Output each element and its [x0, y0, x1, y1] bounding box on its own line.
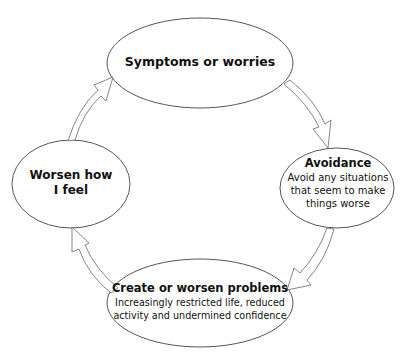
node-worsen-title-line-1: Worsen how	[14, 168, 128, 183]
node-symptoms: Symptoms or worries	[110, 54, 290, 70]
node-problems-desc-line-2: activity and undermined confidence	[110, 309, 290, 322]
node-problems-desc-line-1: Increasingly restricted life, reduced	[110, 296, 290, 309]
node-problems: Create or worsen problems Increasingly r…	[110, 281, 290, 322]
arrow-worsen-to-symptoms-icon	[68, 77, 113, 141]
arrow-avoidance-to-problems-icon	[287, 228, 334, 290]
cycle-diagram: Symptoms or worries Avoidance Avoid any …	[0, 0, 403, 358]
arrow-symptoms-to-avoidance-icon	[284, 80, 331, 148]
node-avoidance: Avoidance Avoid any situations that seem…	[282, 156, 394, 210]
node-avoidance-title: Avoidance	[282, 156, 394, 171]
node-avoidance-desc-line-1: Avoid any situations	[282, 171, 394, 184]
node-symptoms-title: Symptoms or worries	[110, 54, 290, 70]
node-worsen: Worsen how I feel	[14, 168, 128, 198]
node-avoidance-desc-line-3: things worse	[282, 197, 394, 210]
node-problems-title: Create or worsen problems	[110, 281, 290, 296]
node-avoidance-desc-line-2: that seem to make	[282, 184, 394, 197]
node-worsen-title-line-2: I feel	[14, 183, 128, 198]
